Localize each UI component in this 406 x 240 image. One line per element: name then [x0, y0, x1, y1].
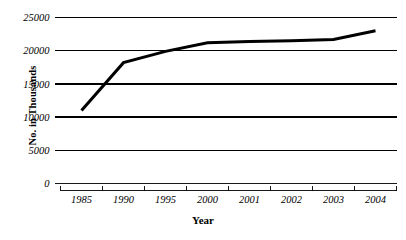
x-axis-title: Year	[0, 214, 406, 226]
y-axis-tick-labels: 0500010000150002000025000	[23, 12, 50, 189]
y-axis-tick-label: 5000	[29, 145, 51, 156]
x-axis-tick-label: 2003	[323, 194, 344, 205]
x-axis-tick-label: 2002	[281, 194, 303, 205]
series-line	[82, 31, 376, 111]
x-axis-tick-label: 1990	[113, 194, 135, 205]
plot-area: 0500010000150002000025000 19851990199520…	[0, 0, 406, 240]
y-axis-tick-label: 10000	[23, 112, 50, 123]
line-chart: No. in Thousands 05000100001500020000250…	[0, 0, 406, 240]
data-series-line	[82, 31, 376, 111]
y-axis-tick-label: 25000	[23, 12, 50, 23]
x-axis-ticks	[61, 186, 397, 191]
y-axis-tick-label: 15000	[23, 79, 50, 90]
x-axis-tick-label: 1995	[155, 194, 176, 205]
x-axis-tick-label: 2001	[239, 194, 260, 205]
x-axis-tick-label: 1985	[71, 194, 92, 205]
y-axis-tick-label: 20000	[23, 45, 50, 56]
x-axis-tick-label: 2004	[365, 194, 387, 205]
x-axis-tick-label: 2000	[197, 194, 219, 205]
x-axis-tick-labels: 19851990199520002001200220032004	[71, 194, 387, 205]
y-axis-tick-label: 0	[44, 178, 50, 189]
